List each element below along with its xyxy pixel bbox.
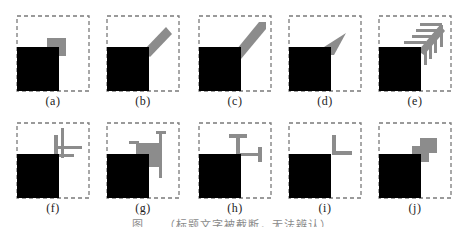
panel-c-graphic <box>198 15 272 92</box>
panel-i-label: (i) <box>288 201 362 216</box>
panel-h <box>198 122 272 199</box>
panel-g-label: (g) <box>106 201 180 216</box>
panel-d <box>288 15 362 92</box>
panel-e-label: (e) <box>378 94 452 109</box>
panel-j-graphic <box>378 122 452 199</box>
panel-a-graphic <box>16 15 90 92</box>
panel-a-label: (a) <box>16 94 90 109</box>
panel-c-label: (c) <box>198 94 272 109</box>
panel-e-graphic <box>378 15 452 92</box>
panel-d-graphic <box>288 15 362 92</box>
panel-e <box>378 15 452 92</box>
panel-h-graphic <box>198 122 272 199</box>
panel-d-label: (d) <box>288 94 362 109</box>
panel-f-graphic <box>16 122 90 199</box>
figure-caption: 图 … （标题文字被截断，无法辨认） <box>0 216 464 227</box>
panel-g <box>106 122 180 199</box>
panel-c <box>198 15 272 92</box>
panel-j-label: (j) <box>378 201 452 216</box>
panel-f-label: (f) <box>16 201 90 216</box>
panel-b-graphic <box>106 15 180 92</box>
panel-h-label: (h) <box>198 201 272 216</box>
panel-i <box>288 122 362 199</box>
panel-b-label: (b) <box>106 94 180 109</box>
panel-j <box>378 122 452 199</box>
panel-b <box>106 15 180 92</box>
panel-f <box>16 122 90 199</box>
panel-g-graphic <box>106 122 180 199</box>
panel-a <box>16 15 90 92</box>
panel-i-graphic <box>288 122 362 199</box>
